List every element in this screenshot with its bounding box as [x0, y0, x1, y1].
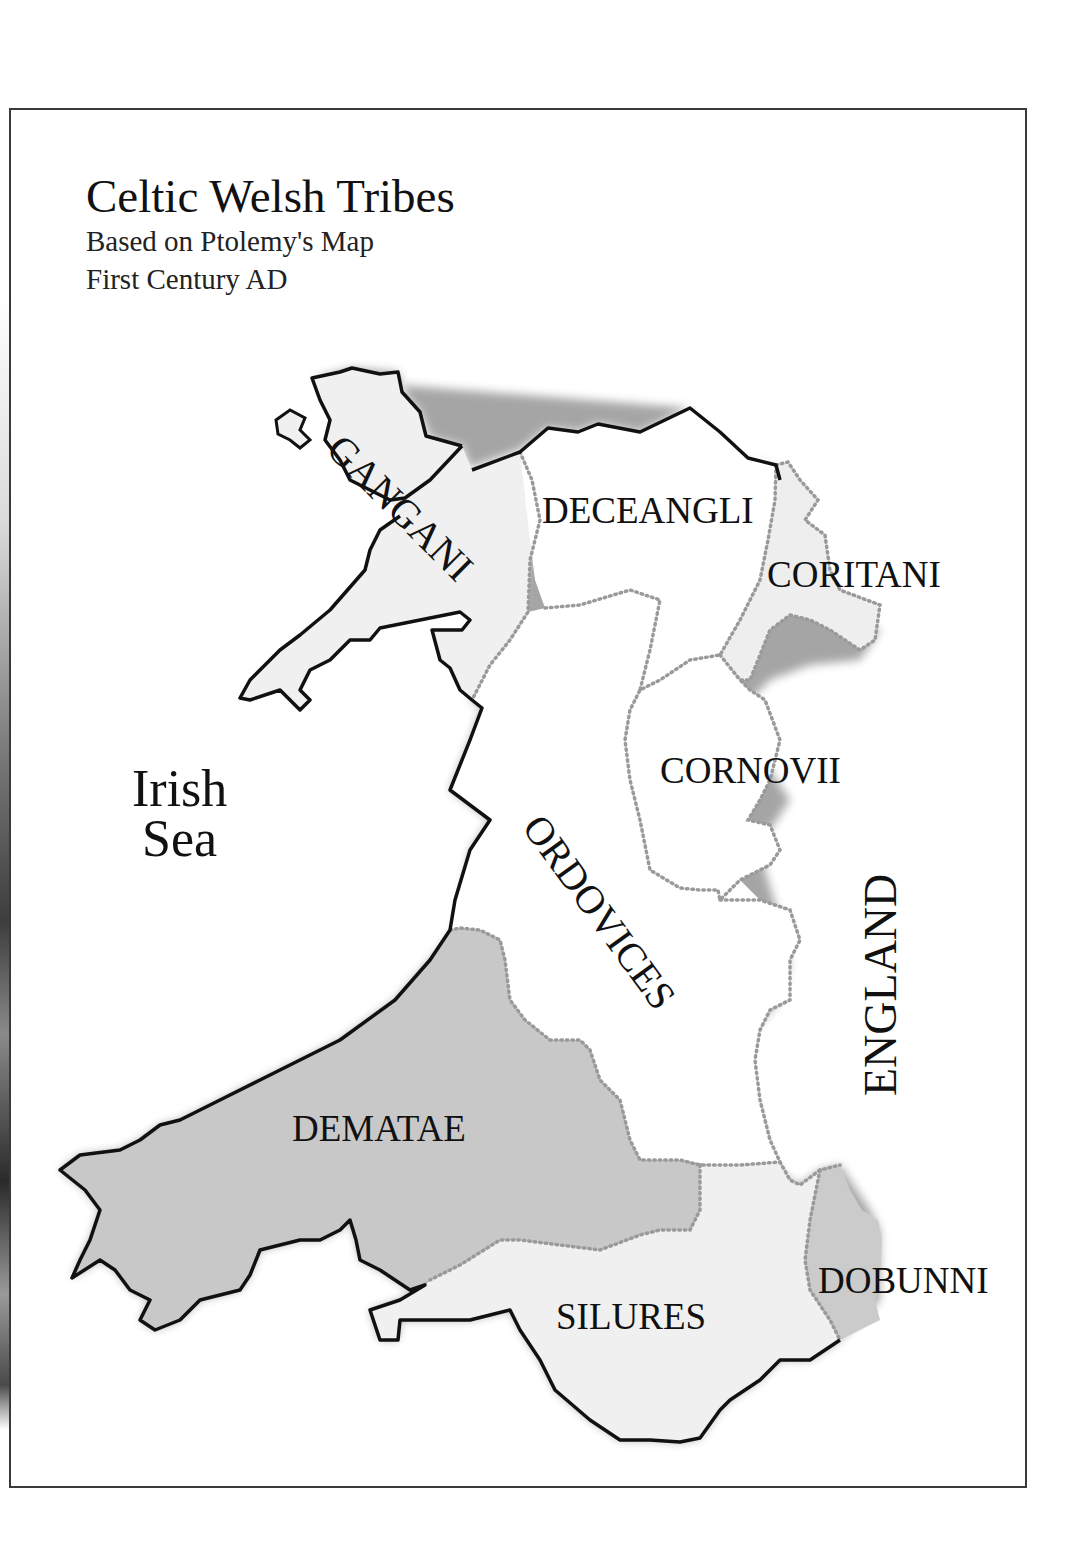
holy-island [276, 410, 310, 448]
label-coritani: CORITANI [767, 556, 941, 593]
label-silures: SILURES [556, 1298, 706, 1335]
map-title: Celtic Welsh Tribes [86, 170, 455, 222]
map-title-block: Celtic Welsh Tribes Based on Ptolemy's M… [86, 170, 455, 298]
irish-sea-label: Irish Sea [132, 764, 227, 864]
label-dematae: DEMATAE [292, 1110, 466, 1147]
irish-sea-line2: Sea [132, 814, 227, 864]
label-england: ENGLAND [858, 874, 904, 1096]
label-cornovii: CORNOVII [660, 752, 841, 789]
irish-sea-line1: Irish [132, 764, 227, 814]
label-dobunni: DOBUNNI [818, 1262, 989, 1299]
map-subtitle-date: First Century AD [86, 260, 455, 298]
label-deceangli: DECEANGLI [542, 492, 754, 529]
map-subtitle-source: Based on Ptolemy's Map [86, 222, 455, 260]
